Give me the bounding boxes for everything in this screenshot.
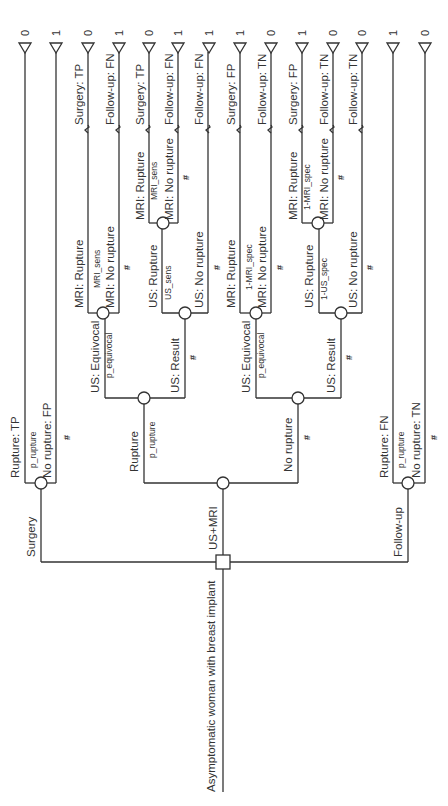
chance-node-usmri[interactable] <box>217 477 229 489</box>
outcome-label: Follow-up: TN <box>318 54 330 125</box>
nr-us-mri-norupture-label: MRI: No rupture <box>318 138 330 220</box>
outcome-labels: Surgery: TP Follow-up: FN Surgery: TP Fo… <box>73 53 359 125</box>
nr-eq-mri-norupture-prob: # <box>275 265 285 270</box>
terminal-triangle-icon <box>19 43 31 53</box>
payoff-value: 0 <box>82 30 94 36</box>
r-eq-mri-rupture-prob: MRI_sens <box>92 250 102 288</box>
usmri-rupture-label: Rupture <box>128 431 140 472</box>
outcome-label: Surgery: FP <box>225 63 237 125</box>
root-label: Asymptomatic woman with breast implant <box>205 580 217 792</box>
branch-surgery[interactable]: Surgery Rupture: TP p_rupture No rupture… <box>9 52 72 562</box>
nr-eq-mri-norupture-label: MRI: No rupture <box>256 226 268 308</box>
outcome-label: Follow-up: FN <box>193 53 205 125</box>
usmri-rupture-prob: p_rupture <box>147 421 157 458</box>
outcome-label: Follow-up: TN <box>256 54 268 125</box>
terminal-triangle-icon <box>82 43 94 53</box>
r-us-mri-rupture-label: MRI: Rupture <box>134 152 146 220</box>
terminal-triangle-icon <box>234 43 246 53</box>
surgery-rupture-label: Rupture: TP <box>9 416 21 478</box>
followup-rupture-label: Rupture: FN <box>378 415 390 478</box>
option-usmri-label: US+MRI <box>207 506 219 550</box>
nr-us-norupture-label: US: No rupture <box>347 231 359 308</box>
r-us-rupture-label: US: Rupture <box>147 245 159 308</box>
decision-node[interactable] <box>216 555 230 569</box>
outcome-label: Follow-up: FN <box>104 53 116 125</box>
option-surgery-label: Surgery <box>25 516 37 557</box>
r-us-mri-norupture-label: MRI: No rupture <box>163 138 175 220</box>
terminal-triangle-icon <box>172 43 184 53</box>
followup-norupture-prob: # <box>429 435 439 440</box>
payoff-value: 0 <box>356 30 368 36</box>
terminal-triangle-icon <box>387 43 399 53</box>
payoff-value: 1 <box>296 30 308 36</box>
nr-us-rupture-label: US: Rupture <box>303 245 315 308</box>
nr-us-rupture-prob: 1-US_spec <box>319 257 329 300</box>
nr-eq-mri-rupture-prob: 1-MRI_spec <box>244 243 254 290</box>
option-followup-label: Follow-up <box>392 507 404 557</box>
nr-result-prob: # <box>344 355 354 360</box>
nr-equivocal-label: US: Equivocal <box>240 321 252 393</box>
r-eq-mri-rupture-label: MRI: Rupture <box>73 240 85 308</box>
terminal-triangle-icon <box>113 43 125 53</box>
terminal-triangle-icon <box>265 43 277 53</box>
surgery-norupture-prob: # <box>62 435 72 440</box>
branch-followup[interactable]: Follow-up Rupture: FN p_rupture No ruptu… <box>378 52 439 562</box>
payoff-value: 1 <box>387 30 399 36</box>
nr-eq-mri-rupture-label: MRI: Rupture <box>225 240 237 308</box>
r-us-norupture-prob: # <box>212 265 222 270</box>
followup-norupture-label: No rupture: TN <box>410 402 422 478</box>
r-us-mri-norupture-prob: # <box>181 175 191 180</box>
r-us-rupture-prob: US_sens <box>163 266 173 301</box>
r-result-prob: # <box>188 355 198 360</box>
payoff-value: 0 <box>143 30 155 36</box>
payoff-value: 1 <box>172 30 184 36</box>
r-us-norupture-label: US: No rupture <box>193 231 205 308</box>
payoff-value: 0 <box>419 30 431 36</box>
r-result-label: US: Result <box>169 337 181 393</box>
outcome-label: Follow-up: TN <box>347 54 359 125</box>
nr-us-mri-rupture-prob: 1-MRI_spec <box>302 163 312 210</box>
terminal-nodes: 0 1 0 1 0 1 1 1 0 1 0 0 1 0 <box>19 30 431 53</box>
r-eq-mri-norupture-prob: # <box>122 265 132 270</box>
r-equivocal-prob: p_equivocal <box>104 333 114 378</box>
chance-node-nr-result[interactable] <box>335 307 347 319</box>
branch-us-mri[interactable]: US+MRI Rupture p_rupture US: Equivocal p… <box>73 52 375 555</box>
terminal-triangle-icon <box>296 43 308 53</box>
payoff-value: 1 <box>50 30 62 36</box>
decision-tree-diagram: Asymptomatic woman with breast implant S… <box>0 0 448 806</box>
jagged-marks <box>85 125 363 133</box>
payoff-value: 0 <box>327 30 339 36</box>
root-branch: Asymptomatic woman with breast implant <box>205 567 223 792</box>
chance-node-norupture[interactable] <box>292 392 304 404</box>
chance-node-r-result[interactable] <box>179 307 191 319</box>
outcome-label: Surgery: FP <box>287 63 299 125</box>
usmri-norupture-label: No rupture <box>282 418 294 472</box>
terminal-triangle-icon <box>419 43 431 53</box>
chance-node-rupture[interactable] <box>138 392 150 404</box>
nr-result-label: US: Result <box>325 337 337 393</box>
r-us-mri-rupture-prob: MRI_sens <box>149 162 159 200</box>
surgery-norupture-label: No rupture: FP <box>41 402 53 478</box>
followup-rupture-prob: p_rupture <box>396 431 406 468</box>
terminal-triangle-icon <box>143 43 155 53</box>
r-eq-mri-norupture-label: MRI: No rupture <box>104 226 116 308</box>
payoff-value: 1 <box>203 30 215 36</box>
r-equivocal-label: US: Equivocal <box>89 321 101 393</box>
nr-us-norupture-prob: # <box>365 265 375 270</box>
terminal-triangle-icon <box>203 43 215 53</box>
outcome-label: Surgery: TP <box>73 64 85 125</box>
terminal-triangle-icon <box>327 43 339 53</box>
terminal-triangle-icon <box>356 43 368 53</box>
payoff-value: 1 <box>234 30 246 36</box>
outcome-label: Surgery: TP <box>134 64 146 125</box>
payoff-value: 0 <box>19 30 31 36</box>
usmri-norupture-prob: # <box>302 435 312 440</box>
nr-us-mri-rupture-label: MRI: Rupture <box>287 152 299 220</box>
payoff-value: 1 <box>113 30 125 36</box>
nr-us-mri-norupture-prob: # <box>336 175 346 180</box>
terminal-triangle-icon <box>50 43 62 53</box>
payoff-value: 0 <box>265 30 277 36</box>
surgery-rupture-prob: p_rupture <box>28 431 38 468</box>
nr-equivocal-prob: p_equivocal <box>256 333 266 378</box>
outcome-label: Follow-up: FN <box>163 53 175 125</box>
